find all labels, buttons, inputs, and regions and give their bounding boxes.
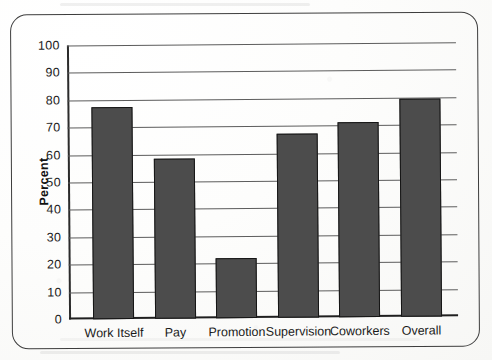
- bar-slot: Supervision: [265, 43, 329, 317]
- y-axis-tick-label: 0: [55, 312, 62, 326]
- y-axis-tick-label: 80: [46, 93, 61, 107]
- x-axis-tick-label: Pay: [165, 325, 187, 339]
- x-axis-tick-label: Overall: [402, 323, 442, 337]
- y-axis-tick-label: 30: [47, 230, 62, 244]
- y-axis-tick-label: 40: [46, 203, 61, 217]
- bar: [399, 99, 441, 317]
- y-axis-tick-label: 50: [46, 175, 61, 189]
- bar: [154, 158, 196, 319]
- x-axis-tick-label: Supervision: [266, 324, 331, 339]
- bar-slot: Pay: [142, 44, 206, 318]
- x-axis-tick-label: Promotion: [208, 325, 265, 339]
- y-axis-tick-label: 60: [46, 148, 61, 162]
- bar-chart: Percent 1009080706050403020100 Work Itse…: [0, 0, 492, 360]
- bar: [277, 134, 319, 318]
- x-axis-tick-label: Coworkers: [330, 324, 390, 338]
- plot-area: 1009080706050403020100 Work ItselfPayPro…: [67, 42, 458, 319]
- bar-slot: Coworkers: [327, 43, 391, 317]
- x-axis-tick-label: Work Itself: [84, 326, 143, 340]
- bar: [338, 122, 380, 317]
- y-axis-tick-label: 70: [46, 121, 61, 135]
- bar-slot: Promotion: [204, 44, 268, 318]
- bars-group: Work ItselfPayPromotionSupervisionCowork…: [67, 42, 458, 319]
- bar: [216, 258, 257, 319]
- bar-slot: Overall: [388, 42, 452, 316]
- y-axis-tick-label: 100: [38, 38, 60, 52]
- y-axis-tick-label: 90: [45, 66, 60, 80]
- y-axis-tick-label: 10: [47, 285, 62, 299]
- bar-slot: Work Itself: [81, 45, 145, 319]
- bar: [92, 107, 134, 320]
- y-axis-tick-label: 20: [47, 258, 62, 272]
